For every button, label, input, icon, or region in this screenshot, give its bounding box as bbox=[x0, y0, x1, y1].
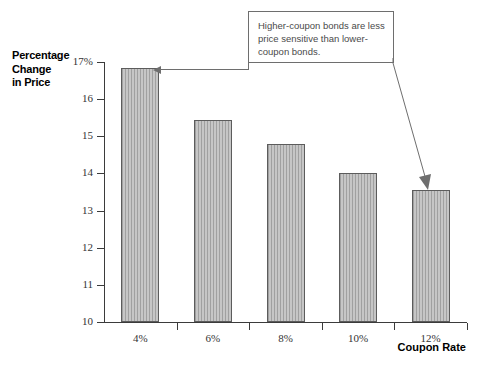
annotation-callout-box: Higher-coupon bonds are less price sensi… bbox=[248, 11, 394, 63]
chart-figure: Percentage Change in Price 17%1615141312… bbox=[0, 0, 477, 368]
y-axis-tick: 16 bbox=[97, 99, 104, 100]
y-axis-tick: 12 bbox=[97, 248, 104, 249]
arrow-left-icon bbox=[153, 66, 161, 74]
y-axis-title-line-3: in Price bbox=[12, 76, 90, 90]
x-axis-tick-label: 4% bbox=[110, 332, 170, 344]
y-axis-tick: 17% bbox=[97, 62, 104, 63]
x-axis-tick-label: 6% bbox=[183, 332, 243, 344]
callout-connector-stub bbox=[248, 63, 249, 70]
bar bbox=[267, 144, 305, 322]
y-axis-tick-label: 10 bbox=[82, 315, 93, 327]
y-axis-tick-label: 13 bbox=[82, 204, 93, 216]
y-axis-tick-label: 11 bbox=[82, 278, 93, 290]
x-axis-title: Coupon Rate bbox=[350, 341, 466, 353]
x-axis-line bbox=[104, 322, 467, 323]
callout-connector-right bbox=[380, 58, 440, 198]
y-axis-line bbox=[104, 62, 105, 323]
y-axis-tick-label: 16 bbox=[82, 92, 93, 104]
bar bbox=[339, 173, 377, 322]
x-axis-tick bbox=[394, 323, 395, 330]
x-axis-tick bbox=[249, 323, 250, 330]
annotation-callout-text: Higher-coupon bonds are less price sensi… bbox=[258, 19, 388, 58]
x-axis-tick bbox=[467, 323, 468, 330]
x-axis-tick bbox=[322, 323, 323, 330]
y-axis-tick: 11 bbox=[97, 285, 104, 286]
y-axis-tick: 10 bbox=[97, 322, 104, 323]
bar bbox=[412, 190, 450, 322]
bar bbox=[121, 68, 159, 322]
callout-connector-left-line bbox=[160, 69, 248, 70]
arrow-down-icon bbox=[419, 174, 431, 190]
y-axis-tick-label: 15 bbox=[82, 129, 93, 141]
y-axis-tick-label: 17% bbox=[73, 55, 93, 67]
y-axis-tick: 14 bbox=[97, 173, 104, 174]
y-axis-tick-label: 12 bbox=[82, 241, 93, 253]
bar bbox=[194, 120, 232, 322]
y-axis-tick-label: 14 bbox=[82, 166, 93, 178]
x-axis-tick bbox=[177, 323, 178, 330]
x-axis-tick-label: 8% bbox=[256, 332, 316, 344]
y-axis-tick: 15 bbox=[97, 136, 104, 137]
y-axis-tick: 13 bbox=[97, 211, 104, 212]
